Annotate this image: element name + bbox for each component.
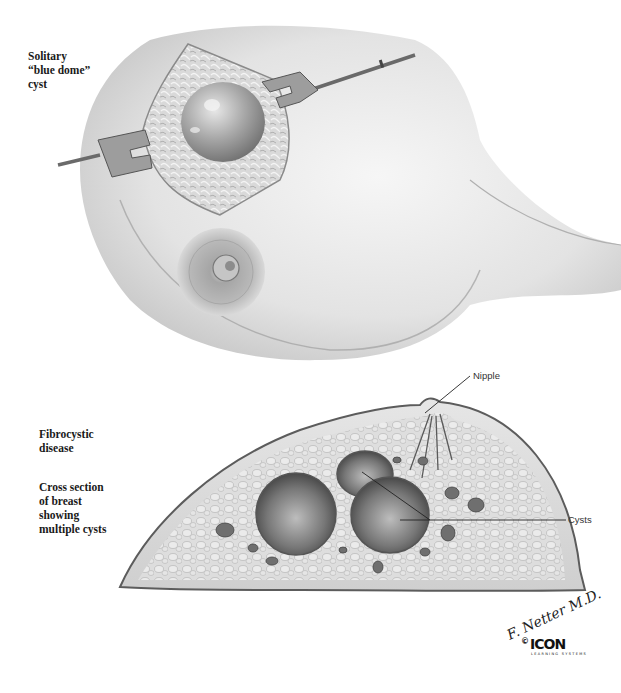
callout-nipple: Nipple [473, 370, 500, 381]
caption-solitary-blue-dome-cyst: Solitary “blue dome” cyst [28, 49, 90, 91]
cyst-large-left [256, 473, 336, 555]
icon-logo: ICON [530, 636, 565, 652]
breast-surgical-view [58, 26, 621, 360]
caption-cross-section: Cross section of breast showing multiple… [39, 480, 106, 536]
caption-fibrocystic-disease: Fibrocystic disease [39, 427, 94, 455]
breast-cross-section [120, 398, 585, 590]
blue-dome-cyst [181, 82, 265, 162]
cyst-large-right [351, 477, 429, 553]
callout-cysts: Cysts [568, 514, 592, 525]
copyright-symbol: © [521, 637, 529, 646]
medical-illustration [0, 0, 621, 693]
icon-logo-subtitle: LEARNING SYSTEMS [531, 652, 587, 656]
